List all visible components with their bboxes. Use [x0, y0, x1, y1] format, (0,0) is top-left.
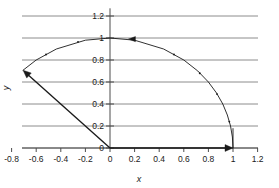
arc-tick-dot-3 — [173, 54, 175, 56]
x-tick-label-2: -0.4 — [53, 154, 68, 164]
x-tick-label-6: 0.4 — [153, 154, 165, 164]
x-tick-label-1: -0.6 — [29, 154, 44, 164]
figure-panel: -0.8-0.6-0.4-0.200.20.40.60.811.2 00.20.… — [0, 0, 279, 188]
y-tick-label-5: 1 — [99, 33, 104, 43]
plot-svg: -0.8-0.6-0.4-0.200.20.40.60.811.2 00.20.… — [0, 0, 279, 188]
y-tick-label-1: 0.2 — [92, 121, 104, 131]
x-tick-label-4: 0 — [108, 154, 113, 164]
x-tick-label-0: -0.8 — [4, 154, 19, 164]
y-tick-label-6: 1.2 — [92, 11, 104, 21]
y-tick-label-2: 0.4 — [92, 99, 104, 109]
arc-tick-dot-5 — [45, 54, 47, 56]
x-tick-label-7: 0.6 — [178, 154, 190, 164]
arc-tick-dot-2 — [199, 72, 201, 74]
y-tick-label-0: 0 — [99, 143, 104, 153]
y-axis-label: y — [1, 85, 11, 91]
x-tick-label-10: 1.2 — [252, 154, 264, 164]
arc-tick-dot-1 — [216, 93, 218, 95]
arc-tick-dot-0 — [228, 121, 230, 123]
x-tick-label-8: 0.8 — [202, 154, 214, 164]
x-tick-label-9: 1 — [231, 154, 236, 164]
x-tick-label-3: -0.2 — [78, 154, 93, 164]
x-axis-label: x — [136, 174, 142, 184]
y-tick-label-4: 0.8 — [92, 55, 104, 65]
x-tick-label-5: 0.2 — [129, 154, 141, 164]
arc-tick-dot-4 — [77, 41, 79, 43]
y-tick-label-3: 0.6 — [92, 77, 104, 87]
